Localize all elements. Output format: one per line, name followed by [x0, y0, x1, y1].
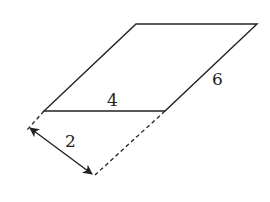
height-arrow-icon — [30, 128, 92, 174]
side-length-label: 6 — [212, 69, 223, 89]
diagram: 4 6 2 — [0, 0, 270, 202]
parallelogram-figure: 4 6 2 — [0, 0, 270, 202]
dashed-extension-left — [27, 111, 44, 130]
base-length-label: 4 — [107, 90, 118, 110]
height-label: 2 — [65, 131, 76, 151]
parallelogram-outline — [44, 24, 257, 111]
dashed-extension-bottom — [95, 111, 165, 175]
